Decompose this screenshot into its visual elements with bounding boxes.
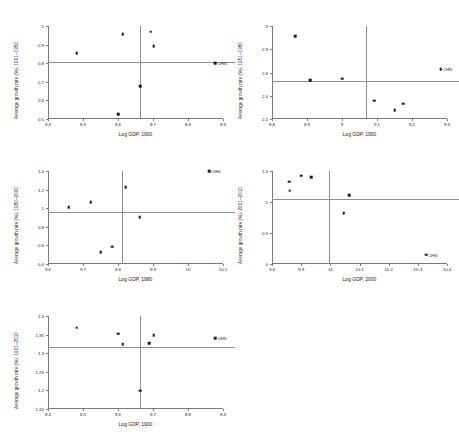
- y-tick-mark: [270, 96, 272, 97]
- data-point: [122, 33, 125, 36]
- y-tick-mark: [46, 245, 48, 246]
- y-tick-label: 1.5: [232, 169, 268, 174]
- data-point: [150, 30, 153, 33]
- x-tick-mark: [48, 119, 49, 121]
- x-tick-label: 9.3: [444, 122, 450, 127]
- plot-area: [272, 26, 447, 119]
- data-point: [117, 333, 120, 336]
- x-tick-mark: [118, 119, 119, 121]
- x-tick-mark: [301, 264, 302, 266]
- data-point: [89, 201, 92, 204]
- x-axis-label: Log GDP, 1980: [48, 276, 223, 282]
- data-point: [348, 194, 351, 197]
- x-tick-label: 9.8: [269, 267, 275, 272]
- x-tick-label: 8.9: [220, 412, 226, 417]
- x-tick-mark: [48, 264, 49, 266]
- x-tick-mark: [447, 119, 448, 121]
- data-point: [341, 78, 344, 81]
- y-tick-mark: [46, 208, 48, 209]
- x-tick-label: 9.9: [150, 267, 156, 272]
- horizontal-mean-line: [48, 62, 235, 63]
- data-point: [75, 52, 78, 55]
- x-tick-mark: [153, 119, 154, 121]
- y-tick-mark: [46, 82, 48, 83]
- plot-area: [48, 171, 223, 264]
- vertical-mean-line: [329, 171, 330, 264]
- chart-panel-3: 0.40.60.811.21.49.69.79.89.91010.1CHNLog…: [8, 153, 235, 294]
- x-tick-label: 10.1: [355, 267, 364, 272]
- x-tick-mark: [83, 264, 84, 266]
- x-tick-mark: [330, 264, 331, 266]
- y-tick-mark: [270, 49, 272, 50]
- data-point-label: CHN: [428, 252, 437, 257]
- y-tick-mark: [46, 227, 48, 228]
- x-tick-label: 8.9: [304, 122, 310, 127]
- y-tick-label: 3: [232, 24, 268, 29]
- x-tick-mark: [153, 264, 154, 266]
- data-point-label: CHN: [211, 169, 220, 174]
- data-point: [310, 176, 313, 179]
- x-axis-label: Log GDP, 1950: [272, 131, 447, 137]
- x-tick-label: 9.9: [298, 267, 304, 272]
- data-point: [342, 212, 345, 215]
- x-tick-mark: [223, 409, 224, 411]
- data-point: [111, 246, 114, 249]
- y-tick-label: 1.4: [8, 314, 44, 319]
- y-tick-label: 1: [8, 24, 44, 29]
- data-point: [208, 170, 211, 173]
- y-tick-mark: [46, 353, 48, 354]
- data-point: [393, 109, 396, 112]
- plot-area: [48, 316, 223, 409]
- x-axis-label: Log GDP, 1900: [48, 131, 223, 137]
- x-axis-label: Log GDP, 2000: [272, 276, 447, 282]
- data-point: [152, 45, 155, 48]
- y-tick-mark: [270, 233, 272, 234]
- x-tick-label: 10.1: [219, 267, 228, 272]
- y-tick-mark: [46, 171, 48, 172]
- horizontal-mean-line: [48, 212, 235, 213]
- x-tick-label: 10.3: [414, 267, 423, 272]
- x-tick-mark: [360, 264, 361, 266]
- x-tick-label: 8.4: [45, 122, 51, 127]
- data-point: [214, 337, 217, 340]
- chart-panel-1: 0.50.60.70.80.918.48.58.68.78.88.9CHNLog…: [8, 8, 235, 149]
- data-point: [152, 334, 155, 337]
- data-point: [309, 79, 312, 82]
- vertical-mean-line: [140, 26, 141, 119]
- vertical-mean-line: [122, 171, 123, 264]
- data-point: [148, 342, 151, 345]
- horizontal-mean-line: [48, 347, 235, 348]
- data-point-label: CHN: [443, 67, 452, 72]
- y-tick-mark: [46, 190, 48, 191]
- x-tick-label: 8.7: [150, 122, 156, 127]
- x-tick-label: 9.8: [115, 267, 121, 272]
- data-point: [122, 343, 125, 346]
- chart-panel-2: 2.22.42.62.838.88.999.19.29.3CHNLog GDP,…: [232, 8, 459, 149]
- x-tick-label: 9.7: [80, 267, 86, 272]
- x-tick-mark: [118, 264, 119, 266]
- x-tick-mark: [272, 119, 273, 121]
- x-tick-mark: [188, 409, 189, 411]
- x-tick-mark: [412, 119, 413, 121]
- x-tick-mark: [342, 119, 343, 121]
- x-tick-label: 8.8: [269, 122, 275, 127]
- chart-panel-4: 00.511.59.89.91010.110.210.310.4CHNLog G…: [232, 153, 459, 294]
- chart-panel-5: 1.151.21.251.31.351.48.48.58.68.78.88.9C…: [8, 298, 235, 439]
- data-point: [117, 113, 120, 116]
- x-tick-mark: [447, 264, 448, 266]
- data-point: [402, 102, 405, 105]
- x-tick-mark: [377, 119, 378, 121]
- data-point: [214, 62, 217, 65]
- x-tick-label: 8.7: [150, 412, 156, 417]
- y-axis-label: Average growth rate (%), 1901–2010: [14, 332, 19, 409]
- y-tick-mark: [46, 316, 48, 317]
- y-tick-mark: [270, 26, 272, 27]
- data-point: [439, 68, 442, 71]
- data-point-label: CHN: [218, 61, 227, 66]
- data-point: [138, 216, 141, 219]
- y-tick-label: 1.4: [8, 169, 44, 174]
- x-tick-mark: [307, 119, 308, 121]
- x-tick-label: 8.5: [80, 122, 86, 127]
- x-tick-label: 8.6: [115, 412, 121, 417]
- data-point: [139, 389, 142, 392]
